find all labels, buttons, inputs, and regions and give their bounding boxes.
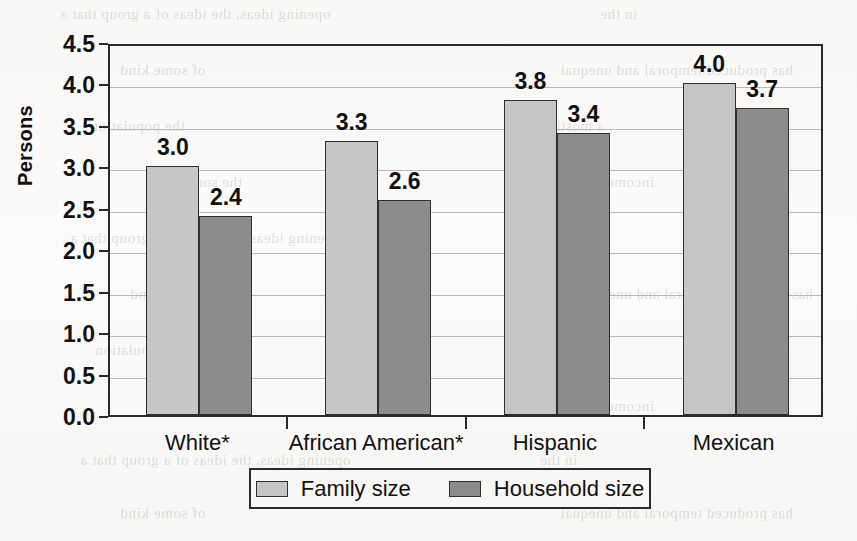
- bar: 3.8: [504, 100, 557, 415]
- y-axis-tick-mark: [99, 209, 108, 211]
- y-axis-tick-mark: [99, 250, 108, 252]
- x-axis-category-label: Mexican: [693, 432, 775, 454]
- y-axis-tick-label: 3.5: [19, 115, 95, 138]
- y-axis-tick-label: 4.5: [19, 33, 95, 56]
- bar-value-label: 4.0: [693, 53, 725, 76]
- chart-legend: Family sizeHousehold size: [249, 468, 651, 509]
- y-axis-tick-mark: [99, 43, 108, 45]
- x-axis-category-label: African American*: [289, 432, 464, 454]
- y-axis-tick-mark: [99, 292, 108, 294]
- y-axis-tick-label: 4.0: [19, 74, 95, 97]
- bar-value-label: 3.4: [567, 103, 599, 126]
- x-axis-tick-mark: [465, 417, 467, 429]
- y-axis-tick-mark: [99, 375, 108, 377]
- light-gray-swatch: [256, 481, 288, 497]
- y-axis-tick-mark: [99, 167, 108, 169]
- y-axis-tick-label: 3.0: [19, 157, 95, 180]
- y-axis-tick-label: 1.0: [19, 323, 95, 346]
- bar: 2.4: [199, 216, 252, 415]
- legend-label: Household size: [494, 478, 644, 500]
- y-axis-tick-label: 1.5: [19, 281, 95, 304]
- legend-label: Family size: [301, 478, 411, 500]
- y-axis-tick-label: 0.5: [19, 364, 95, 387]
- bar-value-label: 2.6: [389, 170, 421, 193]
- grouped-bar-chart: Persons 0.00.51.01.52.02.53.03.54.04.5 3…: [0, 0, 857, 541]
- x-axis-category-label: Hispanic: [513, 432, 597, 454]
- bar-pair: 3.83.4: [468, 46, 647, 415]
- y-axis-tick-mark: [99, 333, 108, 335]
- bar-group: 3.32.6: [289, 46, 468, 415]
- bar-pair: 3.02.4: [110, 46, 289, 415]
- bar: 3.4: [557, 133, 610, 415]
- bar-pair: 4.03.7: [646, 46, 825, 415]
- dark-gray-swatch: [449, 481, 481, 497]
- bar-value-label: 3.3: [336, 111, 368, 134]
- bar: 2.6: [378, 200, 431, 416]
- bar: 3.0: [146, 166, 199, 415]
- bar-value-label: 3.0: [157, 136, 189, 159]
- bar: 4.0: [683, 83, 736, 415]
- y-axis-tick-label: 2.5: [19, 198, 95, 221]
- bar-group: 3.02.4: [110, 46, 289, 415]
- legend-item: Family size: [256, 478, 411, 500]
- y-axis-tick-label: 2.0: [19, 240, 95, 263]
- legend-item: Household size: [449, 478, 644, 500]
- x-axis-tick-mark: [286, 417, 288, 429]
- bar: 3.7: [736, 108, 789, 415]
- bar-value-label: 3.7: [746, 78, 778, 101]
- bar-value-label: 2.4: [210, 186, 242, 209]
- x-axis-tick-mark: [643, 417, 645, 429]
- y-axis-tick-label: 0.0: [19, 406, 95, 429]
- bar-value-label: 3.8: [514, 70, 546, 93]
- y-axis-tick-mark: [99, 84, 108, 86]
- plot-area: 3.02.43.32.63.83.44.03.7: [108, 44, 823, 417]
- bar: 3.3: [325, 141, 378, 415]
- bar-group: 3.83.4: [468, 46, 647, 415]
- bar-pair: 3.32.6: [289, 46, 468, 415]
- y-axis-tick-mark: [99, 126, 108, 128]
- x-axis-category-label: White*: [165, 432, 230, 454]
- y-axis-tick-mark: [99, 416, 108, 418]
- bar-group: 4.03.7: [646, 46, 825, 415]
